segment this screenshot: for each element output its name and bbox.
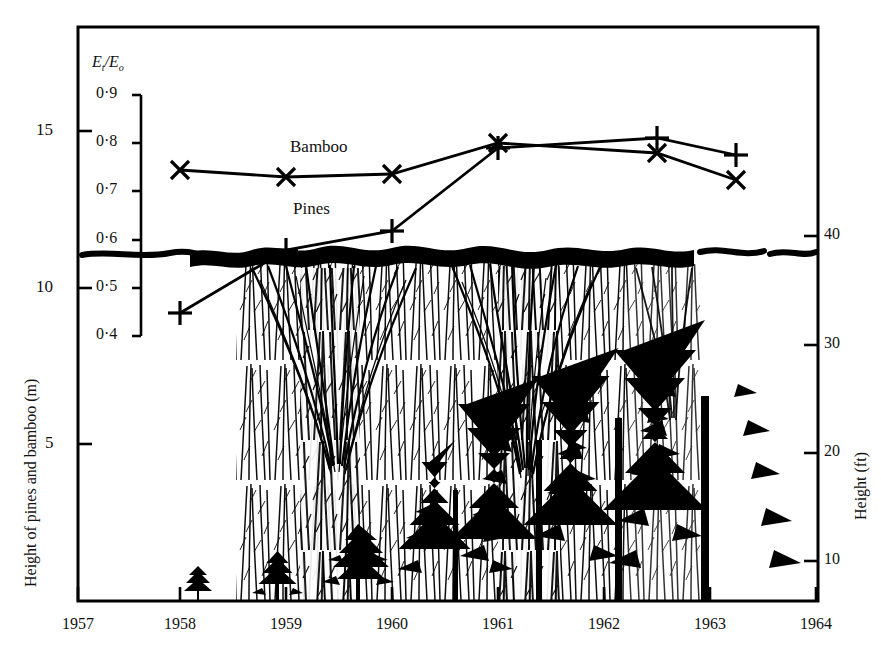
chart-canvas — [0, 0, 881, 654]
x-tick-1958: 1958 — [159, 615, 201, 633]
x-tick-1963: 1963 — [689, 615, 731, 633]
left-tick-10: 10 — [36, 277, 53, 297]
x-tick-1964: 1964 — [795, 615, 837, 633]
e-main-symbol-2: E — [109, 53, 119, 70]
x-tick-1961: 1961 — [477, 615, 519, 633]
left-axis-ticks — [78, 131, 92, 444]
pine-sapling-1957 — [184, 566, 212, 601]
x-tick-1960: 1960 — [371, 615, 413, 633]
right-tick-30: 30 — [824, 334, 840, 352]
x-tick-1962: 1962 — [583, 615, 625, 633]
secondary-tick-08: 0·8 — [96, 132, 117, 150]
secondary-tick-06: 0·6 — [96, 229, 117, 247]
left-tick-15: 15 — [36, 120, 53, 140]
right-axis-title: Height (ft) — [852, 452, 870, 520]
right-tick-20: 20 — [824, 442, 840, 460]
secondary-tick-05: 0·5 — [96, 277, 117, 295]
secondary-axis-title: Et/Eo — [92, 53, 124, 73]
right-tick-10: 10 — [824, 550, 840, 568]
chart-figure: 15 10 5 Height of pines and bamboo (m) E… — [0, 0, 881, 654]
secondary-tick-07: 0·7 — [96, 180, 117, 198]
e-sub-o: o — [119, 62, 124, 73]
right-tick-40: 40 — [824, 225, 840, 243]
annotation-pines: Pines — [293, 199, 330, 219]
right-axis-ticks — [804, 236, 818, 561]
left-tick-5: 5 — [45, 433, 54, 453]
annotation-bamboo: Bamboo — [290, 137, 348, 157]
x-tick-1959: 1959 — [265, 615, 307, 633]
x-tick-1957: 1957 — [57, 615, 99, 633]
secondary-tick-09: 0·9 — [96, 84, 117, 102]
secondary-tick-04: 0·4 — [96, 325, 117, 343]
e-main-symbol: E — [92, 53, 102, 70]
secondary-axis — [132, 95, 141, 336]
left-axis-title: Height of pines and bamboo (m) — [22, 379, 40, 587]
